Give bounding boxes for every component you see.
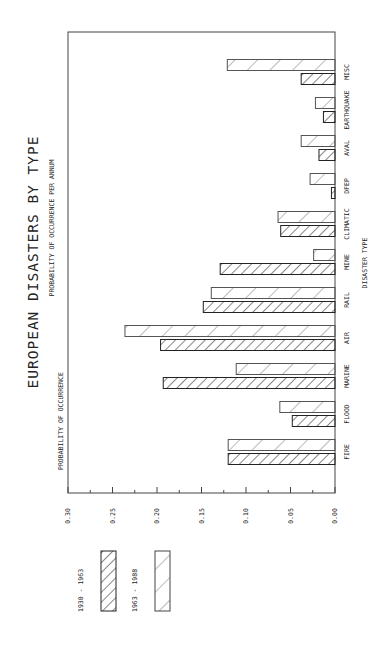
category-label-dfep: DFEP: [343, 178, 351, 194]
bar-flood-1963-1988: [280, 402, 335, 413]
bar-flood-1930-1963: [292, 416, 335, 427]
bar-climatic-1930-1963: [281, 226, 335, 237]
bar-earthquake-1963-1988: [315, 98, 335, 109]
bar-mine-1930-1963: [220, 264, 335, 275]
bar-climatic-1963-1988: [278, 212, 335, 223]
legend-label-1963-1988: 1963 - 1988: [131, 569, 139, 612]
bar-rail-1930-1963: [203, 302, 335, 313]
category-label-misc: MISC: [343, 64, 351, 80]
category-label-earthquake: EARTHQUAKE: [343, 90, 351, 129]
category-axis: FIREFLOODMARINEAIRRAILMINECLIMATICDFEPAV…: [343, 64, 351, 460]
category-label-marine: MARINE: [343, 364, 351, 388]
bar-fire-1963-1988: [228, 440, 335, 451]
axis-tick-label: 0.15: [198, 508, 206, 524]
chart-subtitle: PROBABILITY OF OCCURRENCE PER ANNUM: [48, 159, 56, 296]
bar-earthquake-1930-1963: [323, 112, 335, 123]
y-axis-label: PROBABILITY OF OCCURRENCE: [57, 372, 65, 470]
category-label-fire: FIRE: [343, 444, 351, 460]
axis-tick-label: 0.30: [64, 508, 72, 524]
category-label-air: AIR: [343, 332, 351, 344]
category-label-mine: MINE: [343, 254, 351, 270]
axis-tick-label: 0.20: [153, 508, 161, 524]
bar-group: [125, 60, 335, 465]
bar-marine-1930-1963: [163, 378, 335, 389]
legend-swatch-1963-1988: [155, 551, 170, 611]
bar-air-1963-1988: [125, 326, 335, 337]
x-axis-label: DISASTER TYPE: [361, 237, 369, 288]
axis-tick-label: 0.00: [331, 508, 339, 524]
legend: 1930 - 1963 1963 - 1988: [77, 551, 170, 612]
bar-aval-1930-1963: [319, 150, 335, 161]
legend-swatch-1930-1963: [101, 551, 116, 611]
bar-misc-1930-1963: [301, 74, 335, 85]
bar-air-1930-1963: [161, 340, 335, 351]
bar-misc-1963-1988: [227, 60, 335, 71]
bar-fire-1930-1963: [228, 454, 335, 465]
category-label-rail: RAIL: [343, 292, 351, 308]
axis-tick-label: 0.25: [109, 508, 117, 524]
bar-aval-1963-1988: [301, 136, 335, 147]
legend-label-1930-1963: 1930 - 1963: [77, 569, 85, 612]
bar-dfep-1930-1963: [331, 188, 335, 199]
category-label-aval: AVAL: [343, 140, 351, 156]
axis-tick-label: 0.10: [242, 508, 250, 524]
bar-rail-1963-1988: [211, 288, 335, 299]
chart-canvas: 0.000.050.100.150.200.250.30 FIREFLOODMA…: [0, 0, 372, 655]
axis-tick-label: 0.05: [287, 508, 295, 524]
bar-mine-1963-1988: [314, 250, 335, 261]
bar-marine-1963-1988: [236, 364, 335, 375]
bar-dfep-1963-1988: [310, 174, 335, 185]
chart-title: EUROPEAN DISASTERS BY TYPE: [25, 136, 41, 389]
bar-chart: 0.000.050.100.150.200.250.30 FIREFLOODMA…: [0, 0, 372, 655]
category-label-climatic: CLIMATIC: [343, 208, 351, 239]
category-label-flood: FLOOD: [343, 404, 351, 424]
